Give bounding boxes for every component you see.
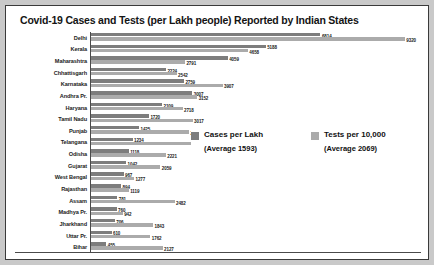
bar-cases [91, 138, 133, 142]
bar-tests [91, 165, 160, 169]
category-label: Karnataka [61, 81, 87, 87]
bar-cases [91, 242, 106, 246]
bar-cases [91, 79, 184, 83]
bar-row: Uttar Pr.6101762 [15, 230, 421, 242]
bar-tests [91, 84, 223, 88]
bar-row: Delhi68149320 [15, 32, 421, 44]
bar-cases [91, 149, 129, 153]
bar-value-label: 4658 [249, 49, 259, 54]
bar-cases [91, 126, 139, 130]
bar-row: Jharkhand7061843 [15, 218, 421, 230]
legend-swatch-tests-icon [311, 132, 319, 140]
legend-swatch-cases-icon [191, 132, 199, 140]
bar-row: West Bengal9671277 [15, 172, 421, 184]
bar-tests [91, 235, 150, 239]
bar-cases [91, 114, 149, 118]
bar-value-label: 942 [124, 212, 131, 217]
bar-row: Karnataka27593907 [15, 79, 421, 91]
bar-cases [91, 231, 112, 235]
bar-tests [91, 188, 129, 192]
category-label: Assam [69, 198, 87, 204]
bar-value-label: 2059 [162, 165, 172, 170]
bar-tests [91, 246, 163, 250]
chart-title: Covid-19 Cases and Tests (per Lakh peopl… [20, 14, 420, 26]
bar-value-label: 3907 [224, 84, 234, 89]
bar-tests [91, 72, 177, 76]
legend-label-cases: Cases per Lakh [204, 130, 263, 139]
bar-row: Madhya Pr.760942 [15, 206, 421, 218]
bar-cases [91, 172, 124, 176]
bar-tests [91, 153, 166, 157]
bar-tests [91, 200, 175, 204]
bar-value-label: 2718 [184, 107, 194, 112]
bar-cases [91, 91, 192, 95]
category-label: Uttar Pr. [66, 233, 87, 239]
bar-tests [91, 107, 183, 111]
bar-tests [91, 177, 134, 181]
bar-value-label: 2127 [164, 247, 174, 252]
bar-tests [91, 119, 193, 123]
bar-tests [91, 95, 197, 99]
category-label: West Bengal [55, 174, 87, 180]
bar-tests [91, 212, 123, 216]
bar-row: Andhra Pr.30073152 [15, 90, 421, 102]
bar-tests [91, 37, 405, 41]
bar-tests [91, 223, 153, 227]
chart-legend: Cases per Lakh (Average 1593) Tests per … [191, 130, 421, 164]
category-label: Rajasthan [61, 186, 87, 192]
category-label: Jharkhand [60, 221, 87, 227]
bar-value-label: 9320 [406, 37, 416, 42]
category-label: Andhra Pr. [60, 93, 87, 99]
category-label: Odisha [69, 151, 87, 157]
bar-tests [91, 60, 185, 64]
bar-value-label: 4059 [229, 56, 239, 61]
bar-cases [91, 68, 166, 72]
chart-card: Covid-19 Cases and Tests (per Lakh peopl… [5, 5, 429, 260]
bar-cases [91, 196, 117, 200]
bar-value-label: 3152 [199, 96, 209, 101]
bar-value-label: 1762 [152, 235, 162, 240]
bar-value-label: 1277 [136, 177, 146, 182]
legend-average-tests: (Average 2069) [324, 144, 377, 153]
bar-value-label: 1119 [130, 189, 139, 194]
bar-value-label: 2791 [186, 61, 196, 66]
category-label: Gujarat [68, 163, 87, 169]
bar-row: Rajasthan8941119 [15, 183, 421, 195]
bar-cases [91, 219, 115, 223]
bar-cases [91, 184, 121, 188]
bar-row: Maharashtra40592791 [15, 55, 421, 67]
bar-row: Tamil Nadu17203017 [15, 113, 421, 125]
bar-value-label: 3017 [194, 119, 204, 124]
category-label: Telangana [61, 139, 87, 145]
bar-tests [91, 130, 189, 134]
bar-cases [91, 103, 162, 107]
bar-row: Haryana21092718 [15, 102, 421, 114]
bar-cases [91, 207, 117, 211]
bar-tests [91, 142, 204, 146]
category-label: Bihar [73, 244, 87, 250]
bar-value-label: 2221 [167, 154, 177, 159]
bar-row: Assam7812482 [15, 195, 421, 207]
bar-row: Kerala51884658 [15, 44, 421, 56]
category-label: Punjab [69, 128, 87, 134]
category-label: Chhattisgarh [54, 70, 87, 76]
bar-value-label: 2482 [176, 200, 186, 205]
category-label: Haryana [66, 105, 87, 111]
bar-tests [91, 49, 248, 53]
legend-label-tests: Tests per 10,000 [324, 130, 386, 139]
category-label: Tamil Nadu [58, 116, 87, 122]
bar-row: Chhattisgarh22242542 [15, 67, 421, 79]
category-label: Kerala [70, 46, 87, 52]
bar-cases [91, 33, 320, 37]
bar-value-label: 2542 [178, 72, 188, 77]
category-label: Maharashtra [55, 58, 87, 64]
bar-row: Bihar4552127 [15, 241, 421, 253]
bar-cases [91, 56, 228, 60]
bar-value-label: 1843 [155, 224, 165, 229]
legend-average-cases: (Average 1593) [204, 144, 257, 153]
category-label: Delhi [74, 35, 87, 41]
bar-cases [91, 161, 126, 165]
bar-value-label: 5188 [267, 45, 277, 50]
category-label: Madhya Pr. [58, 209, 87, 215]
bar-cases [91, 45, 266, 49]
